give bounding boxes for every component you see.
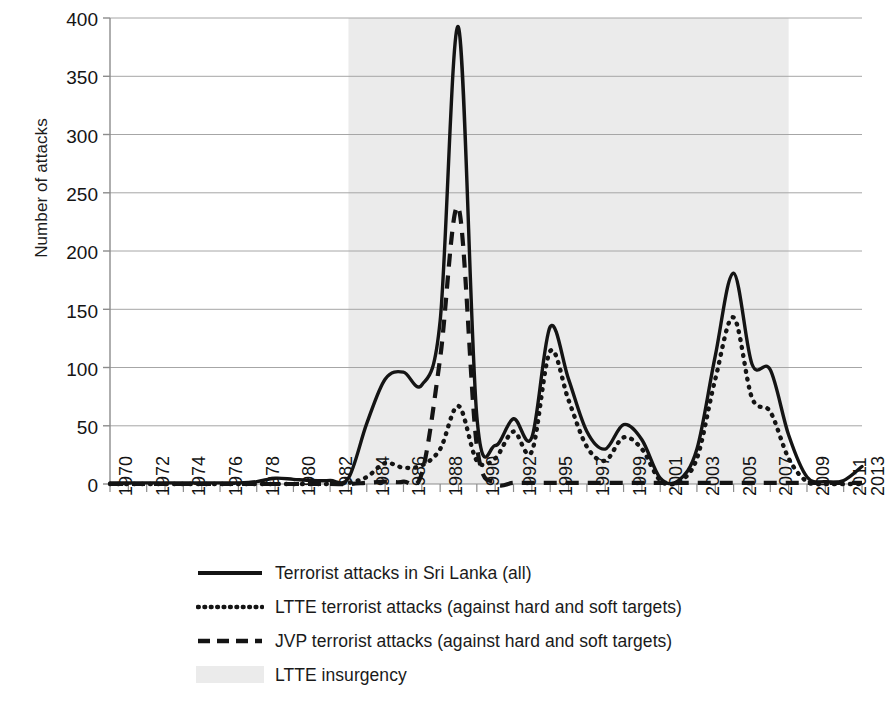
legend-item-insurgency: LTTE insurgency (196, 658, 856, 692)
x-tick-label-2011: 2011 (851, 457, 869, 496)
legend-label-jvp: JVP terrorist attacks (against hard and … (275, 631, 672, 652)
dashed-line-swatch (196, 632, 264, 650)
x-tick-label-2001: 2001 (667, 456, 685, 496)
x-tick-label-1980: 1980 (300, 456, 318, 496)
x-tick-label-1976: 1976 (227, 456, 245, 496)
x-tick-label-2009: 2009 (814, 456, 832, 496)
x-tick-label-2003: 2003 (704, 456, 722, 496)
x-tick-label-1986: 1986 (410, 456, 428, 496)
x-tick-label-1970: 1970 (117, 456, 135, 496)
x-tick-label-1984: 1984 (374, 456, 392, 496)
x-tick-label-2005: 2005 (741, 456, 759, 496)
solid-line-swatch (196, 564, 264, 582)
legend-label-all: Terrorist attacks in Sri Lanka (all) (275, 563, 532, 584)
x-tick-label-1974: 1974 (190, 456, 208, 496)
x-tick-label-1990: 1990 (484, 456, 502, 496)
x-tick-label-1992: 1992 (521, 456, 539, 496)
x-tick-label-1972: 1972 (154, 456, 172, 496)
x-tick-label-1995: 1995 (557, 456, 575, 496)
x-tick-label-2013: 2013 (869, 456, 887, 496)
legend-item-jvp: JVP terrorist attacks (against hard and … (196, 624, 856, 658)
x-tick-label-1988: 1988 (447, 456, 465, 496)
shaded-area-swatch (196, 666, 264, 684)
x-tick-label-1982: 1982 (337, 456, 355, 496)
dotted-line-swatch (196, 598, 264, 616)
x-tick-label-2007: 2007 (777, 456, 795, 496)
legend-item-all: Terrorist attacks in Sri Lanka (all) (196, 556, 856, 590)
legend-item-ltte: LTTE terrorist attacks (against hard and… (196, 590, 856, 624)
legend-label-insurgency: LTTE insurgency (275, 665, 407, 686)
x-tick-label-1999: 1999 (631, 456, 649, 496)
y-axis-spine (103, 18, 110, 484)
x-tick-label-1997: 1997 (594, 456, 612, 496)
x-tick-label-1978: 1978 (264, 456, 282, 496)
legend-label-ltte: LTTE terrorist attacks (against hard and… (275, 597, 682, 618)
chart-legend: Terrorist attacks in Sri Lanka (all) LTT… (196, 556, 856, 692)
plot-area (0, 0, 878, 500)
